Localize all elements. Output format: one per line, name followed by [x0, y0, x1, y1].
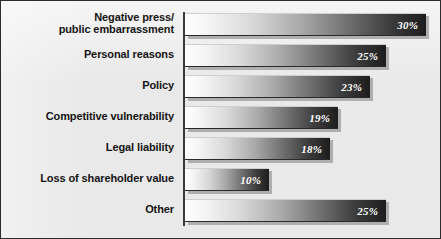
bar-row: Other 25%	[1, 199, 440, 222]
bar-chart-figure: Negative press/ public embarrassment 30%…	[0, 0, 441, 239]
bar-fill: 19%	[185, 106, 338, 129]
bar-category-label-line1: Loss of shareholder value	[5, 173, 174, 185]
bar: 18%	[185, 137, 330, 160]
bar: 23%	[185, 75, 370, 98]
bar-category-label-line2: public embarrassment	[5, 24, 174, 36]
bar: 25%	[185, 44, 386, 67]
bar-category-label: Policy	[5, 80, 181, 92]
bar-fill: 10%	[185, 168, 269, 191]
bar-category-label: Legal liability	[5, 142, 181, 154]
bar-fill: 25%	[185, 199, 386, 222]
bar-value-label: 25%	[357, 205, 378, 217]
bar-category-label-line1: Policy	[5, 80, 174, 92]
bar-category-label-line1: Legal liability	[5, 142, 174, 154]
bar-value-label: 10%	[240, 174, 261, 186]
plot-area: Negative press/ public embarrassment 30%…	[1, 1, 440, 238]
bar-category-label: Competitive vulnerability	[5, 111, 181, 123]
bar-value-label: 30%	[397, 19, 418, 31]
bar-row: Policy 23%	[1, 75, 440, 98]
bar-value-label: 23%	[341, 81, 362, 93]
bar: 25%	[185, 199, 386, 222]
bar-category-label-line1: Personal reasons	[5, 49, 174, 61]
bar-category-label: Personal reasons	[5, 49, 181, 61]
bar: 19%	[185, 106, 338, 129]
bar-category-label: Loss of shareholder value	[5, 173, 181, 185]
bar-fill: 30%	[185, 13, 426, 36]
bar-row: Competitive vulnerability 19%	[1, 106, 440, 129]
bar-row: Negative press/ public embarrassment 30%	[1, 13, 440, 36]
bar-row: Loss of shareholder value 10%	[1, 168, 440, 191]
bar-category-label: Negative press/ public embarrassment	[5, 12, 181, 35]
bar-row: Personal reasons 25%	[1, 44, 440, 67]
bar-fill: 23%	[185, 75, 370, 98]
bar-value-label: 18%	[301, 143, 322, 155]
bar: 10%	[185, 168, 269, 191]
bar-value-label: 19%	[309, 112, 330, 124]
bar-fill: 25%	[185, 44, 386, 67]
bar-fill: 18%	[185, 137, 330, 160]
bar: 30%	[185, 13, 426, 36]
bar-category-label-line1: Competitive vulnerability	[5, 111, 174, 123]
bar-category-label: Other	[5, 204, 181, 216]
bar-category-label-line1: Other	[5, 204, 174, 216]
bar-row: Legal liability 18%	[1, 137, 440, 160]
bar-category-label-line1: Negative press/	[5, 12, 174, 24]
bar-value-label: 25%	[357, 50, 378, 62]
